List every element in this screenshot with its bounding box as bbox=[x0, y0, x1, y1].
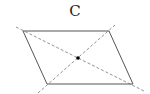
center-point bbox=[76, 56, 80, 60]
parallelogram-diagram bbox=[0, 0, 150, 94]
diagonal-line-2 bbox=[38, 25, 115, 93]
